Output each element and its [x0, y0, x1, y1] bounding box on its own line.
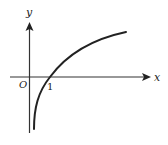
function-graph: y x O 1: [0, 0, 168, 145]
graph-canvas: y x O 1: [0, 0, 168, 145]
x-intercept-label: 1: [47, 81, 53, 92]
origin-label: O: [19, 79, 27, 90]
x-axis-label: x: [154, 71, 161, 84]
y-axis-label: y: [25, 6, 33, 19]
